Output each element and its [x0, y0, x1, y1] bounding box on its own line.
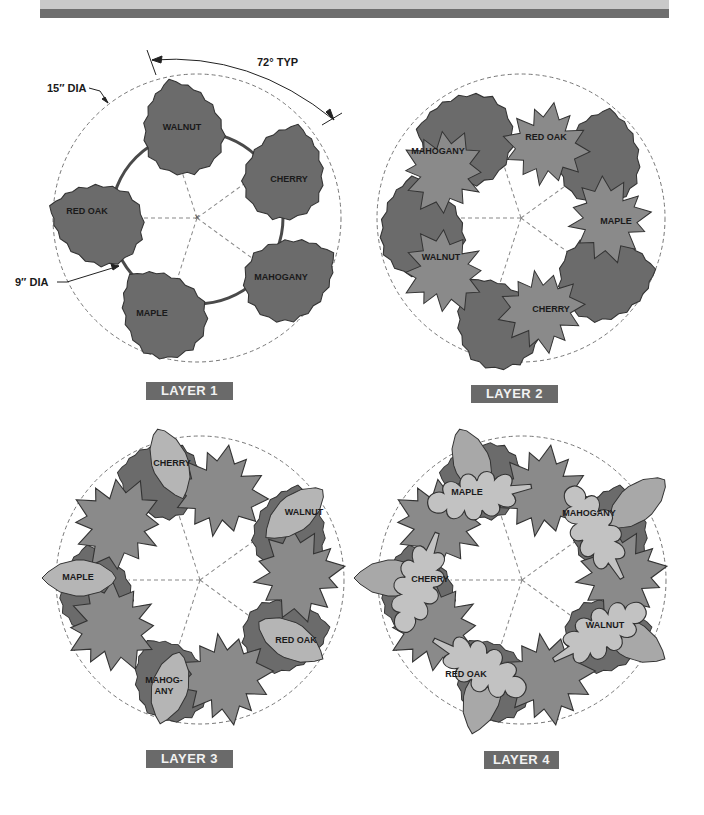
layer-1-tag: LAYER 1: [146, 382, 233, 400]
layer-2-tag: LAYER 2: [471, 385, 558, 403]
leaf-label: CHERRY: [270, 174, 308, 184]
leaf-label: RED OAK: [445, 669, 487, 679]
leaf-label: MAHOGANY: [411, 146, 465, 156]
leaf-label: MAPLE: [451, 487, 483, 497]
leaf-label: CHERRY: [153, 458, 191, 468]
layer-4-panel: MAPLE MAHOGANY WALNUT RED OAK CHERRY: [354, 423, 676, 738]
leaf-label: MAPLE: [136, 308, 168, 318]
leaf-label: CHERRY: [532, 304, 570, 314]
layer-3-panel: CHERRY WALNUT RED OAK MAHOG- ANY MAPLE: [42, 423, 353, 736]
leaf-label: MAHOGANY: [254, 272, 308, 282]
leaf-label: CHERRY: [411, 574, 449, 584]
leaf-label: MAPLE: [600, 216, 632, 226]
layer-1-panel: × WALNUT CHERRY MAHOGANY MAPLE RED OAK: [36, 69, 354, 376]
leaf-label: ANY: [154, 686, 173, 696]
wreath-layers-diagram: × WALNUT CHERRY MAHOGANY MAPLE RED OAK 7…: [0, 0, 704, 815]
layer-3-tag: LAYER 3: [146, 750, 233, 768]
leaf-label: WALNUT: [422, 252, 461, 262]
leaf-label: RED OAK: [66, 206, 108, 216]
angle-dimension-label: 72° TYP: [257, 56, 298, 68]
layer-2-panel: RED OAK MAPLE CHERRY WALNUT MAHOGANY: [371, 74, 665, 385]
leaf-label: MAHOG-: [145, 675, 183, 685]
inner-diameter-label: 9″ DIA: [15, 276, 48, 288]
outer-diameter-label: 15″ DIA: [47, 82, 87, 94]
leaf-label: WALNUT: [285, 507, 324, 517]
leaf-label: WALNUT: [163, 122, 202, 132]
leaf-label: RED OAK: [275, 635, 317, 645]
leaf-label: RED OAK: [525, 132, 567, 142]
svg-text:×: ×: [194, 212, 199, 222]
leaf-label: MAHOGANY: [562, 508, 616, 518]
layer-4-tag: LAYER 4: [484, 751, 559, 769]
leaf-label: MAPLE: [62, 572, 94, 582]
leaf-label: WALNUT: [586, 620, 625, 630]
